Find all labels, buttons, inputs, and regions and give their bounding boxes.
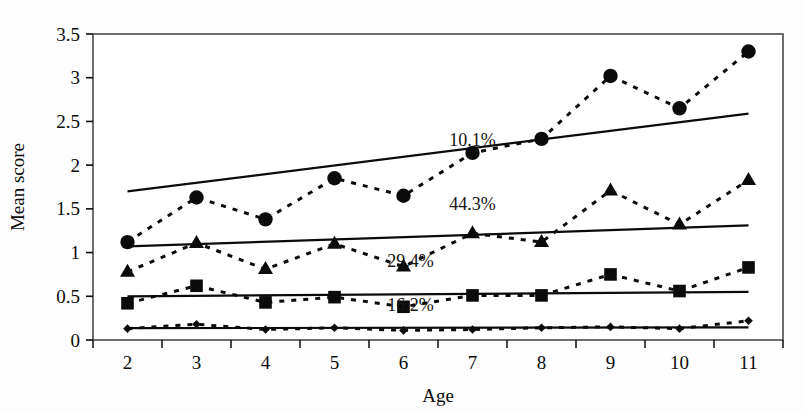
x-axis-tick-label: 6 (399, 352, 409, 373)
series-diamond-trendline (128, 327, 749, 328)
series-circle-marker (396, 189, 410, 203)
series-circle-marker (534, 132, 548, 146)
y-axis-tick-label: 1 (71, 242, 81, 263)
series-diamond-trendline-label: 16.2% (387, 295, 434, 315)
y-axis-title: Mean score (7, 143, 28, 231)
y-axis-tick-label: 2 (71, 155, 81, 176)
chart-figure: 00.511.522.533.5234567891011AgeMean scor… (0, 0, 804, 413)
series-square-marker (328, 291, 341, 304)
x-axis-tick-label: 4 (261, 352, 271, 373)
series-square-marker (535, 289, 548, 302)
y-axis-tick-label: 2.5 (56, 111, 80, 132)
y-axis-tick-label: 3.5 (56, 24, 80, 45)
series-circle-marker (189, 190, 203, 204)
x-axis-tick-label: 5 (330, 352, 340, 373)
series-square-marker (190, 279, 203, 292)
y-axis-tick-label: 0 (71, 330, 81, 351)
series-square-marker (121, 297, 134, 310)
series-square-marker (673, 285, 686, 298)
series-circle-marker (741, 44, 755, 58)
series-circle-marker (327, 171, 341, 185)
x-axis-tick-label: 11 (739, 352, 757, 373)
x-axis-tick-label: 3 (192, 352, 202, 373)
series-square-marker (604, 268, 617, 281)
series-circle-marker (603, 69, 617, 83)
mean-score-by-age-chart: 00.511.522.533.5234567891011AgeMean scor… (0, 0, 804, 413)
series-square-marker (259, 296, 272, 309)
series-square-marker (466, 289, 479, 302)
x-axis-tick-label: 7 (468, 352, 478, 373)
x-axis-title: Age (422, 385, 454, 406)
series-square-trendline-label: 29.4% (387, 251, 434, 271)
series-square-marker (742, 261, 755, 274)
series-circle-marker (258, 212, 272, 226)
y-axis-tick-label: 0.5 (56, 286, 80, 307)
y-axis-tick-label: 3 (71, 67, 81, 88)
x-axis-tick-label: 8 (537, 352, 547, 373)
y-axis-tick-label: 1.5 (56, 198, 80, 219)
series-circle-trendline-label: 10.1% (449, 130, 496, 150)
x-axis-tick-label: 9 (606, 352, 616, 373)
x-axis-tick-label: 2 (123, 352, 133, 373)
series-triangle-trendline-label: 44.3% (449, 194, 496, 214)
x-axis-tick-label: 10 (670, 352, 689, 373)
series-circle-marker (672, 101, 686, 115)
